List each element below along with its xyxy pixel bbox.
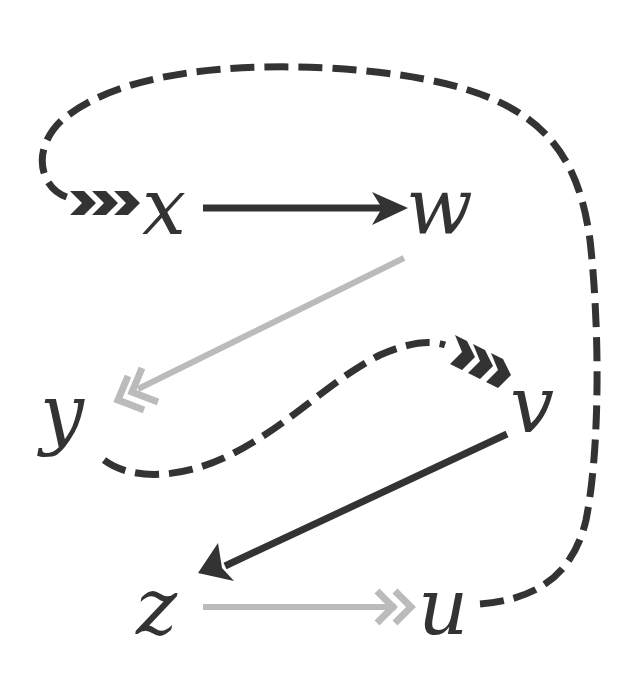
node-u: u bbox=[418, 562, 468, 652]
commutative-diagram: x w y v z u bbox=[0, 0, 640, 682]
edge-v-to-z bbox=[198, 434, 507, 581]
edge-x-to-w bbox=[203, 192, 408, 225]
edge-y-to-v bbox=[104, 335, 511, 474]
node-v: v bbox=[510, 360, 554, 450]
edge-w-to-y bbox=[118, 258, 404, 410]
node-x: x bbox=[142, 162, 186, 252]
node-y: y bbox=[37, 368, 85, 458]
triple-chevron-head-icon bbox=[70, 191, 140, 215]
node-w: w bbox=[406, 162, 473, 252]
node-z: z bbox=[135, 562, 178, 652]
edge-z-to-u bbox=[203, 591, 411, 623]
triple-chevron-head-icon bbox=[450, 335, 511, 388]
